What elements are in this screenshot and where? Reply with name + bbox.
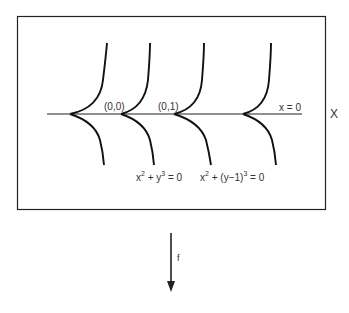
map-label: f xyxy=(177,253,180,263)
space-label: X xyxy=(330,107,338,121)
equation-2: x2 + (y−1)3 = 0 xyxy=(200,170,265,183)
cusp-curve-4 xyxy=(243,43,276,165)
cusp-curve-1 xyxy=(70,43,107,165)
equation-1: x2 + y3 = 0 xyxy=(136,170,183,183)
point-label-0-1: (0,1) xyxy=(158,101,179,112)
point-label-0-0: (0,0) xyxy=(104,101,125,112)
map-arrow xyxy=(167,233,175,292)
line-label: x = 0 xyxy=(279,102,301,113)
diagram-canvas: (0,0) (0,1) x = 0 X x2 + y3 = 0 x2 + (y−… xyxy=(0,0,349,313)
cusp-curve-3 xyxy=(174,43,211,165)
cusp-curve-2 xyxy=(121,43,154,165)
arrowhead-icon xyxy=(167,281,175,292)
